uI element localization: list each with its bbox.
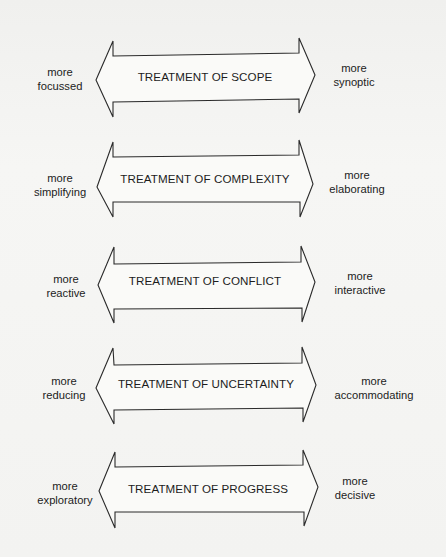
right-pole-label-progress: more decisive: [322, 474, 388, 502]
left-pole-label-complexity: more simplifying: [24, 171, 96, 199]
diagram-page: more focussed TREATMENT OF SCOPE more sy…: [0, 0, 446, 557]
right-pole-label-complexity: more elaborating: [314, 168, 400, 196]
dimension-title-conflict: TREATMENT OF CONFLICT: [110, 274, 300, 287]
left-pole-label-scope: more focussed: [28, 65, 92, 93]
right-pole-label-conflict: more interactive: [320, 269, 400, 297]
left-pole-label-conflict: more reactive: [36, 272, 96, 300]
left-pole-label-progress: more exploratory: [30, 479, 100, 507]
dimension-title-uncertainty: TREATMENT OF UNCERTAINTY: [103, 377, 309, 390]
dimension-title-complexity: TREATMENT OF COMPLEXITY: [105, 172, 305, 185]
right-pole-label-uncertainty: more accommodating: [322, 374, 426, 402]
right-pole-label-scope: more synoptic: [318, 61, 390, 89]
dimension-title-progress: TREATMENT OF PROGRESS: [112, 482, 304, 495]
dimension-title-scope: TREATMENT OF SCOPE: [120, 70, 290, 83]
left-pole-label-uncertainty: more reducing: [34, 374, 94, 402]
